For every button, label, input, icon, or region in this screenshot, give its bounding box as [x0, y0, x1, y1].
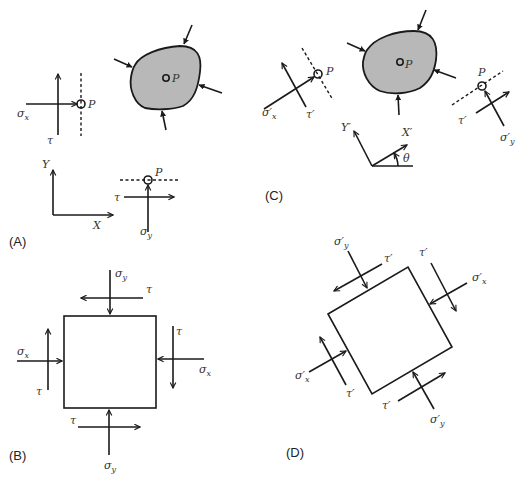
tau-bottom-label: τ [70, 414, 77, 427]
tau-prime-top-label: τ′ [384, 252, 393, 265]
x-axis-label: X [92, 219, 102, 232]
tau-prime-left-arrow-icon [320, 337, 346, 385]
sigma-x-prime-left-arrow-icon [309, 351, 346, 372]
point-p-label: P [325, 65, 334, 78]
rotated-stress-element-square [328, 267, 452, 394]
sigma-x-prime-right-label: σ′x [472, 271, 487, 286]
panel-c: P σ′x τ′ P Y′ X′ θ [262, 10, 515, 203]
tau-prime-right-label: τ′ [419, 246, 428, 259]
load-arrow-icon [114, 59, 132, 67]
tau-left-label: τ [36, 385, 43, 398]
panel-d: σ′y τ′ τ′ σ′x σ′x τ′ τ′ σ′y (D) [286, 235, 487, 460]
load-arrow-icon [434, 70, 456, 78]
point-p-label: P [404, 58, 413, 71]
tau-label: τ [47, 134, 54, 147]
load-arrow-icon [184, 25, 192, 44]
sigma-y-prime-top-label: σ′y [334, 235, 349, 250]
panel-label-a: (A) [9, 234, 26, 249]
y-prime-axis-arrow-icon [354, 131, 372, 166]
point-p-label: P [87, 98, 96, 111]
load-arrow-icon [199, 85, 222, 93]
tau-prime-label: τ′ [306, 108, 315, 121]
sigma-x-left-label: σx [17, 345, 30, 360]
y-axis-label: Y [42, 158, 51, 171]
load-arrow-icon [418, 10, 426, 30]
panel-label-d: (D) [286, 445, 304, 460]
x-prime-axis-label: X′ [401, 126, 413, 139]
load-arrow-icon [398, 95, 399, 115]
sigma-y-prime-top-arrow-icon [348, 251, 367, 288]
load-arrow-icon [162, 111, 166, 130]
sigma-x-label: σx [17, 107, 30, 122]
body-shape [131, 46, 201, 109]
stress-transformation-figure: P σx τ P Y X P τ σy [0, 0, 522, 480]
sigma-y-prime-label: σ′y [500, 131, 515, 146]
tau-prime-bottom-label: τ′ [382, 399, 391, 412]
sigma-x-prime-label: σ′x [262, 106, 277, 121]
point-p-label: P [171, 72, 180, 85]
tau-top-label: τ [146, 283, 153, 296]
sigma-x-prime-left-label: σ′x [295, 369, 310, 384]
panel-b: σy τ σx τ τ σx τ σy (B) [9, 267, 212, 474]
stress-element-square [64, 316, 156, 408]
panel-c-x-face-element: P σ′x τ′ [262, 48, 334, 121]
sigma-y-bottom-label: σy [104, 459, 117, 474]
sigma-x-right-label: σx [199, 363, 212, 378]
sigma-x-prime-right-arrow-icon [430, 283, 467, 304]
tau-prime-left-label: τ′ [346, 387, 355, 400]
tau-prime-arrow-icon [476, 92, 509, 113]
tau-prime-bottom-arrow-icon [398, 373, 445, 401]
panel-a-xy-axes: Y X [42, 158, 113, 232]
panel-a: P σx τ P Y X P τ σy [9, 25, 222, 249]
theta-angle-arc-icon [394, 153, 398, 166]
point-p-marker [314, 70, 322, 78]
tau-prime-right-arrow-icon [431, 263, 456, 311]
panel-label-b: (B) [9, 448, 26, 463]
panel-c-rotated-axes: Y′ X′ θ [341, 121, 413, 166]
sigma-y-prime-bottom-label: σ′y [430, 413, 445, 428]
y-prime-axis-label: Y′ [341, 121, 351, 134]
tau-label: τ [114, 191, 121, 204]
point-p-label: P [154, 166, 163, 179]
panel-c-loaded-body: P [347, 10, 456, 115]
load-arrow-icon [347, 43, 365, 51]
sigma-y-top-label: σy [115, 267, 128, 282]
point-p-label: P [477, 66, 486, 79]
sigma-y-label: σy [140, 225, 153, 240]
theta-label: θ [403, 152, 410, 165]
panel-a-loaded-body: P [114, 25, 222, 130]
panel-a-y-face-element: P τ σy [114, 166, 179, 240]
x-prime-axis-arrow-icon [372, 145, 407, 166]
tau-right-label: τ [176, 325, 183, 338]
body-shape [363, 31, 437, 93]
panel-c-y-face-element: P τ′ σ′y [452, 66, 515, 146]
tau-prime-label: τ′ [458, 114, 467, 127]
point-p-marker [478, 82, 486, 90]
sigma-x-prime-arrow-icon [264, 77, 314, 109]
panel-label-c: (C) [265, 188, 283, 203]
panel-a-x-face-element: P σx τ [17, 73, 96, 147]
